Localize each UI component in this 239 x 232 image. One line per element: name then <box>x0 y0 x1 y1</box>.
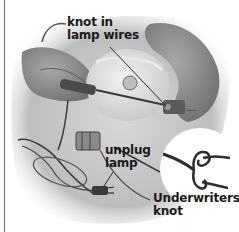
label-knot-in-lamp-wires: knot in lamp wires <box>67 16 139 42</box>
lamp-socket <box>163 100 185 114</box>
label-underwriters-knot: Underwriters knot <box>153 192 239 218</box>
lamp-bulb <box>86 49 170 121</box>
label-line: lamp wires <box>67 29 139 42</box>
label-line: lamp <box>105 157 151 170</box>
socket-shell-parts <box>76 132 100 150</box>
label-unplug-lamp: unplug lamp <box>105 144 151 170</box>
label-line: knot <box>153 205 239 218</box>
illustration-canvas: knot in lamp wires unplug lamp Underwrit… <box>0 0 239 232</box>
